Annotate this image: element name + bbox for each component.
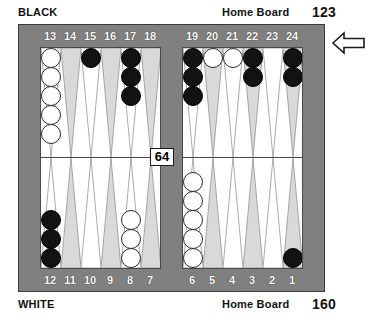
point-number-21: 21 [221, 28, 243, 44]
checker-white-point-8[interactable] [121, 210, 141, 230]
quadrant-bottom-left[interactable] [40, 157, 161, 269]
checker-black-point-1[interactable] [283, 248, 303, 268]
point-number-5: 5 [201, 272, 223, 288]
top-player-label: BLACK [18, 6, 58, 18]
checker-black-point-19[interactable] [183, 48, 203, 68]
point-number-1: 1 [281, 272, 303, 288]
point-triangle-7[interactable] [141, 158, 161, 268]
checker-black-point-19[interactable] [183, 67, 203, 87]
point-number-12: 12 [39, 272, 61, 288]
checker-white-point-6[interactable] [183, 172, 203, 192]
point-number-9: 9 [99, 272, 121, 288]
point-number-2: 2 [261, 272, 283, 288]
checker-black-point-22[interactable] [243, 48, 263, 68]
point-numbers-bottom: 121110987654321 [19, 272, 324, 288]
checker-white-point-13[interactable] [41, 105, 61, 125]
point-number-15: 15 [79, 28, 101, 44]
checker-white-point-6[interactable] [183, 248, 203, 268]
checker-black-point-24[interactable] [283, 67, 303, 87]
quadrant-top-right[interactable] [182, 47, 303, 159]
point-triangle-10[interactable] [81, 158, 101, 268]
checker-black-point-24[interactable] [283, 48, 303, 68]
point-number-10: 10 [79, 272, 101, 288]
point-number-14: 14 [59, 28, 81, 44]
quadrant-bottom-right[interactable] [182, 157, 303, 269]
point-number-20: 20 [201, 28, 223, 44]
checker-white-point-6[interactable] [183, 210, 203, 230]
checker-white-point-13[interactable] [41, 124, 61, 144]
point-triangle-4[interactable] [223, 158, 243, 268]
point-numbers-top: 131415161718192021222324 [19, 28, 324, 44]
top-home-board-label: Home Board [222, 6, 289, 18]
dice-readout[interactable]: 64 [150, 148, 174, 166]
point-number-19: 19 [181, 28, 203, 44]
point-triangle-18[interactable] [141, 48, 161, 158]
checker-black-point-12[interactable] [41, 229, 61, 249]
point-number-16: 16 [99, 28, 121, 44]
checker-white-point-13[interactable] [41, 48, 61, 68]
bottom-pip-count: 160 [312, 296, 336, 312]
checker-black-point-22[interactable] [243, 67, 263, 87]
point-number-7: 7 [139, 272, 161, 288]
checker-white-point-21[interactable] [223, 48, 243, 68]
checker-black-point-17[interactable] [121, 67, 141, 87]
point-number-4: 4 [221, 272, 243, 288]
checker-white-point-8[interactable] [121, 229, 141, 249]
point-number-18: 18 [139, 28, 161, 44]
point-number-6: 6 [181, 272, 203, 288]
point-number-11: 11 [59, 272, 81, 288]
point-triangle-5[interactable] [203, 158, 223, 268]
checker-black-point-17[interactable] [121, 48, 141, 68]
checker-white-point-8[interactable] [121, 248, 141, 268]
quadrant-top-left[interactable] [40, 47, 161, 159]
bottom-player-label: WHITE [18, 298, 54, 310]
checker-black-point-15[interactable] [81, 48, 101, 68]
checker-black-point-12[interactable] [41, 248, 61, 268]
point-triangle-2[interactable] [263, 158, 283, 268]
point-number-17: 17 [119, 28, 141, 44]
checker-white-point-6[interactable] [183, 191, 203, 211]
point-number-3: 3 [241, 272, 263, 288]
arrow-left-icon [332, 30, 366, 56]
point-triangle-16[interactable] [101, 48, 121, 158]
top-pip-count: 123 [312, 4, 336, 20]
point-triangle-9[interactable] [101, 158, 121, 268]
point-number-22: 22 [241, 28, 263, 44]
point-triangle-23[interactable] [263, 48, 283, 158]
point-number-8: 8 [119, 272, 141, 288]
point-number-23: 23 [261, 28, 283, 44]
point-triangle-11[interactable] [61, 158, 81, 268]
bottom-home-board-label: Home Board [222, 298, 289, 310]
checker-black-point-17[interactable] [121, 86, 141, 106]
checker-white-point-20[interactable] [203, 48, 223, 68]
checker-white-point-6[interactable] [183, 229, 203, 249]
point-triangle-14[interactable] [61, 48, 81, 158]
checker-white-point-13[interactable] [41, 86, 61, 106]
checker-black-point-19[interactable] [183, 86, 203, 106]
point-number-13: 13 [39, 28, 61, 44]
point-triangle-3[interactable] [243, 158, 263, 268]
checker-black-point-12[interactable] [41, 210, 61, 230]
point-number-24: 24 [281, 28, 303, 44]
checker-white-point-13[interactable] [41, 67, 61, 87]
